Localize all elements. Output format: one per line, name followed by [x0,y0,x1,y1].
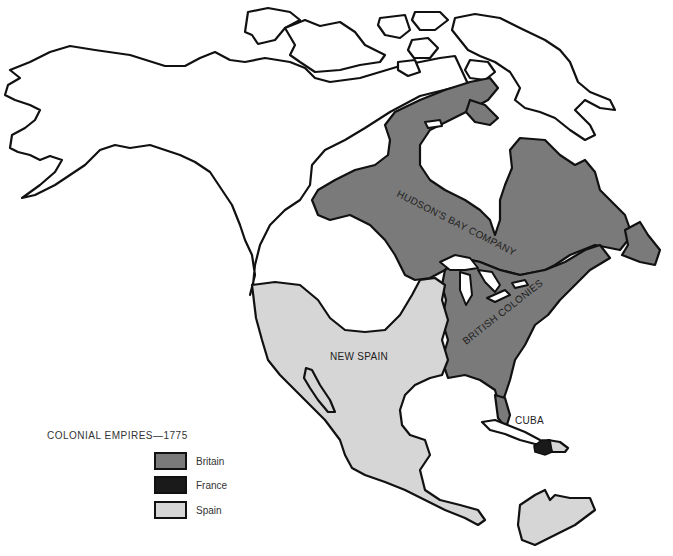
baffin-south-island [466,100,498,125]
arctic-island [378,15,410,38]
france-swatch [154,476,187,494]
legend-title: COLONIAL EMPIRES—1775 [47,430,188,441]
legend-label-france: France [196,480,227,491]
spain-swatch [154,501,187,519]
newfoundland [622,222,660,265]
arctic-island [408,38,438,58]
legend-item-britain: Britain [154,452,224,470]
legend-label-spain: Spain [196,505,222,516]
britain-swatch [154,452,187,470]
label-cuba: CUBA [515,415,544,426]
north-america-map: HUDSON'S BAY COMPANY BRITISH COLONIES NE… [0,0,673,556]
arctic-island [285,20,385,72]
legend-label-britain: Britain [196,456,224,467]
hudson-bay-island [425,120,442,128]
legend-item-spain: Spain [154,501,222,519]
arctic-island [412,12,448,30]
legend-item-france: France [154,476,227,494]
arctic-island [465,60,495,80]
label-new-spain: NEW SPAIN [330,351,388,362]
south-america-spanish [518,490,595,545]
